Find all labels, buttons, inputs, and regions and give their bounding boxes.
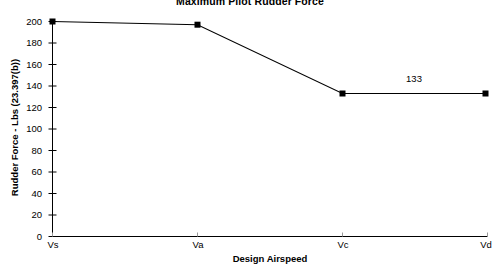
data-label-133: 133: [394, 74, 434, 84]
y-tick-label-140: 140: [8, 81, 42, 91]
x-tick-label-vd: Vd: [466, 240, 500, 250]
x-axis-ticks: [53, 233, 488, 237]
data-markers: [50, 19, 489, 97]
plot-area: [0, 0, 500, 276]
y-tick-label-20: 20: [8, 210, 42, 220]
y-tick-label-100: 100: [8, 124, 42, 134]
x-tick-label-va: Va: [178, 240, 218, 250]
y-tick-label-120: 120: [8, 103, 42, 113]
y-tick-label-160: 160: [8, 60, 42, 70]
x-tick-label-vs: Vs: [33, 240, 73, 250]
data-point-vd: [483, 91, 489, 97]
y-tick-label-60: 60: [8, 167, 42, 177]
y-tick-label-180: 180: [8, 38, 42, 48]
data-point-vc: [340, 91, 346, 97]
chart-figure: Maximum Pilot Rudder Force Rudder Force …: [0, 0, 500, 276]
y-tick-label-200: 200: [8, 17, 42, 27]
y-tick-label-40: 40: [8, 189, 42, 199]
data-point-va: [195, 22, 201, 28]
x-tick-label-vc: Vc: [323, 240, 363, 250]
data-point-vs: [50, 19, 56, 25]
y-tick-label-80: 80: [8, 146, 42, 156]
